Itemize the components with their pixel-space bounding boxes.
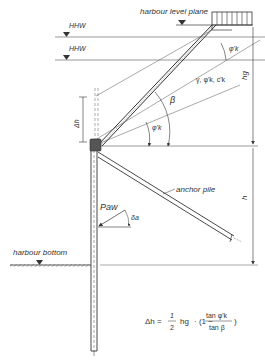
phi-k-top-arc bbox=[221, 43, 226, 60]
sheet-pile-wall bbox=[91, 150, 97, 356]
phi-k-label: φ'k bbox=[152, 124, 162, 132]
delta-h-formula: Δh = 1 2 hg · (1 − tan φ'k tan β ) bbox=[145, 312, 237, 332]
hhw-lower-label: HHW bbox=[69, 45, 87, 52]
phi-k-top-label: φ'k bbox=[229, 45, 239, 53]
svg-text:hg: hg bbox=[180, 317, 189, 326]
phi-k-arc bbox=[146, 122, 150, 146]
water-level-icon bbox=[63, 55, 70, 60]
surcharge-load bbox=[212, 12, 252, 25]
slip-line bbox=[98, 85, 240, 144]
anchor-pile-label: anchor pile bbox=[176, 185, 216, 194]
harbour-bottom-hatch bbox=[10, 264, 91, 267]
svg-text:): ) bbox=[234, 317, 237, 326]
paw-force-arrow bbox=[99, 210, 125, 226]
delta-a-arc bbox=[125, 210, 129, 226]
svg-text:1: 1 bbox=[170, 312, 174, 319]
delta-h-label: Δh bbox=[73, 119, 80, 129]
hg-label: hg bbox=[240, 71, 249, 80]
svg-text:2: 2 bbox=[170, 324, 174, 331]
delta-a-label: δa bbox=[131, 214, 139, 221]
harbour-level-plane-label: harbour level plane bbox=[140, 7, 209, 16]
water-level-icon bbox=[63, 32, 70, 37]
paw-label: Paw bbox=[100, 202, 118, 212]
beta-label: β bbox=[169, 95, 175, 105]
water-level-icon bbox=[178, 20, 186, 25]
h-label: h bbox=[240, 195, 249, 200]
beta-arc bbox=[155, 92, 170, 146]
svg-text:tan β: tan β bbox=[209, 324, 225, 332]
svg-text:tan φ'k: tan φ'k bbox=[206, 312, 228, 320]
sloped-slab bbox=[98, 25, 232, 146]
soil-parameters-label: γ, φ'k, c'k bbox=[196, 76, 225, 84]
quay-wall-diagram: harbour level plane HHW HHW φ'k β φ'k γ,… bbox=[0, 0, 265, 361]
anchor-pile-leader bbox=[163, 189, 175, 194]
slip-line-phi-top bbox=[95, 40, 260, 140]
pile-head-block bbox=[90, 139, 101, 151]
harbour-bottom-label: harbour bottom bbox=[13, 248, 68, 257]
hhw-upper-label: HHW bbox=[69, 22, 87, 29]
svg-text:Δh =: Δh = bbox=[145, 317, 162, 326]
anchor-pile bbox=[98, 152, 242, 242]
